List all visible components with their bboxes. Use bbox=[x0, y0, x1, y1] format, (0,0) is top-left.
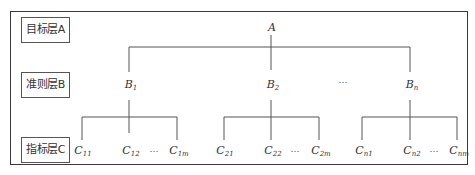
node-c12: C12 bbox=[122, 144, 139, 158]
node-c11: C11 bbox=[74, 144, 91, 158]
groupn-ellipsis: … bbox=[430, 144, 439, 154]
node-c2m: C2m bbox=[311, 144, 331, 158]
node-c21: C21 bbox=[216, 144, 233, 158]
group2-ellipsis: … bbox=[291, 144, 300, 154]
node-b2: B2 bbox=[267, 78, 280, 92]
group1-ellipsis: … bbox=[150, 144, 159, 154]
node-c1m: C1m bbox=[169, 144, 189, 158]
node-cnm: Cnm bbox=[449, 144, 469, 158]
node-a: A bbox=[268, 21, 276, 34]
node-cn1: Cn1 bbox=[355, 144, 372, 158]
node-b1: B1 bbox=[125, 78, 138, 92]
node-cn2: Cn2 bbox=[403, 144, 420, 158]
criteria-ellipsis: … bbox=[339, 75, 348, 85]
node-c22: C22 bbox=[264, 144, 281, 158]
node-bn: Bn bbox=[406, 78, 419, 92]
